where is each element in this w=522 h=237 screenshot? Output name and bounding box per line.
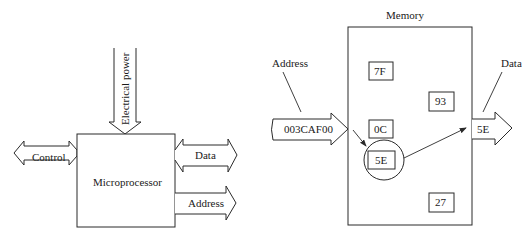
- control-bus-label: Control: [32, 151, 66, 163]
- address-bus-label: Address: [188, 197, 224, 209]
- memory-cell-93-value: 93: [435, 95, 447, 107]
- diagram-canvas: Electrical power Control Microprocessor …: [0, 0, 522, 237]
- memory-cell-7f-value: 7F: [374, 65, 386, 77]
- data-label: Data: [501, 57, 522, 69]
- microprocessor-label: Microprocessor: [93, 176, 162, 188]
- power-label: Electrical power: [119, 52, 131, 125]
- address-label: Address: [272, 57, 308, 69]
- address-value: 003CAF00: [284, 123, 333, 135]
- memory-diagram: Memory Address 003CAF00 7F 93 0C 5E 27 D…: [272, 9, 522, 225]
- data-bus-label: Data: [195, 149, 216, 161]
- data-leader-line: [483, 72, 502, 112]
- memory-cell-27-value: 27: [435, 196, 447, 208]
- data-output-value: 5E: [477, 123, 490, 135]
- memory-title: Memory: [386, 9, 424, 21]
- memory-cell-0c-value: 0C: [374, 123, 387, 135]
- memory-cell-5e-value: 5E: [375, 154, 388, 166]
- microprocessor-diagram: Electrical power Control Microprocessor …: [14, 48, 237, 227]
- address-leader-line: [283, 72, 301, 112]
